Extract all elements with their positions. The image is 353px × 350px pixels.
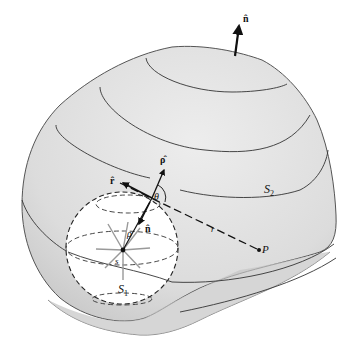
outer-normal-arrow <box>235 26 239 56</box>
surface-diagram: n̂ ρ̂ r̂ θ n̂ ρ s r P S2 S1 <box>0 0 353 350</box>
source-label: s <box>115 256 119 266</box>
outer-surface <box>22 46 336 321</box>
r-hat-label: r̂ <box>110 175 115 186</box>
rho-label: ρ <box>126 228 132 239</box>
inner-normal-label: n̂ <box>145 223 151 234</box>
outer-normal-label: n̂ <box>243 13 249 24</box>
theta-label: θ <box>154 191 159 202</box>
r-label: r <box>211 224 215 234</box>
point-P-label: P <box>261 243 269 255</box>
point-P <box>257 248 261 252</box>
